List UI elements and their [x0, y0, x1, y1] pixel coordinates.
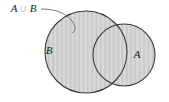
venn-diagram-figure: A ∪ B B A [0, 0, 169, 102]
expression-operator-icon: ∪ [19, 2, 27, 14]
set-a-label: A [133, 48, 141, 60]
set-b-label: B [46, 44, 53, 56]
expression-right-operand: B [30, 2, 37, 14]
expression-left-operand: A [10, 2, 18, 14]
venn-diagram-canvas: A ∪ B B A [0, 0, 169, 102]
